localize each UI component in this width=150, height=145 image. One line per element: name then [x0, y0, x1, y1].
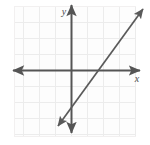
x-axis-label: x [134, 73, 140, 84]
coordinate-graph-figure: y x [0, 0, 150, 145]
y-axis-label: y [61, 6, 67, 17]
graph-canvas: y x [0, 0, 150, 145]
